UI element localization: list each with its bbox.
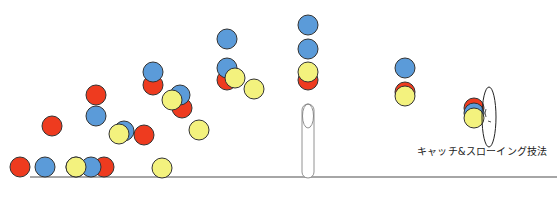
ball-red <box>86 85 106 105</box>
ball-yellow <box>298 62 318 82</box>
ball-blue <box>35 157 55 177</box>
pin-body <box>302 104 314 178</box>
ball-yellow <box>244 79 264 99</box>
ball-blue <box>298 15 318 35</box>
diagram-caption: キャッチ&スローイング技法 <box>417 143 547 158</box>
ball-yellow <box>225 68 245 88</box>
ball-blue <box>143 62 163 82</box>
ball-blue <box>395 58 415 78</box>
ball-yellow <box>109 124 129 144</box>
ball-yellow <box>66 157 86 177</box>
catcher-hand-mark <box>488 121 491 122</box>
ball-red <box>10 157 30 177</box>
ball-blue <box>298 39 318 59</box>
ball-yellow <box>395 86 415 106</box>
ball-blue <box>86 106 106 126</box>
ball-red <box>134 125 154 145</box>
ball-yellow <box>152 158 172 178</box>
ball-blue <box>217 29 237 49</box>
ball-red <box>42 116 62 136</box>
catcher-hand-mark <box>485 109 486 117</box>
diagram-canvas <box>0 0 557 204</box>
ball-yellow <box>464 108 484 128</box>
ball-yellow <box>162 90 182 110</box>
ball-yellow <box>189 120 209 140</box>
catch-throw-diagram: キャッチ&スローイング技法 <box>0 0 557 204</box>
